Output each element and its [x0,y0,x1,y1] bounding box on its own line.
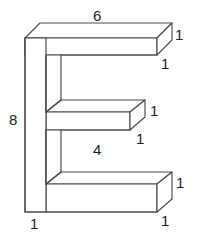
dim-label-bottom-arm-thickness: 1 [161,213,169,228]
dim-label-left-height: 8 [9,112,17,127]
figure-canvas: 6 1 1 8 1 1 4 1 1 1 [0,0,197,239]
bottom-arm-front-face [46,184,157,212]
dim-label-middle-arm-width: 4 [93,142,101,157]
middle-arm-front-face [46,112,130,130]
dim-label-middle-arm-thickness: 1 [136,131,144,146]
bottom-arm-top-face [46,172,172,184]
dim-label-middle-arm-depth: 1 [150,103,158,118]
letter-e-solid-drawing [0,0,197,239]
dim-label-base-thickness: 1 [30,216,38,231]
spine-front-face [25,38,46,212]
dim-label-top-arm-thickness: 1 [161,56,169,71]
middle-arm-top-face [46,100,145,112]
dim-label-bottom-arm-depth: 1 [176,175,184,190]
dim-label-top-arm-depth: 1 [175,27,183,42]
dim-label-top-width: 6 [93,8,101,23]
top-arm-top-face [25,23,172,38]
